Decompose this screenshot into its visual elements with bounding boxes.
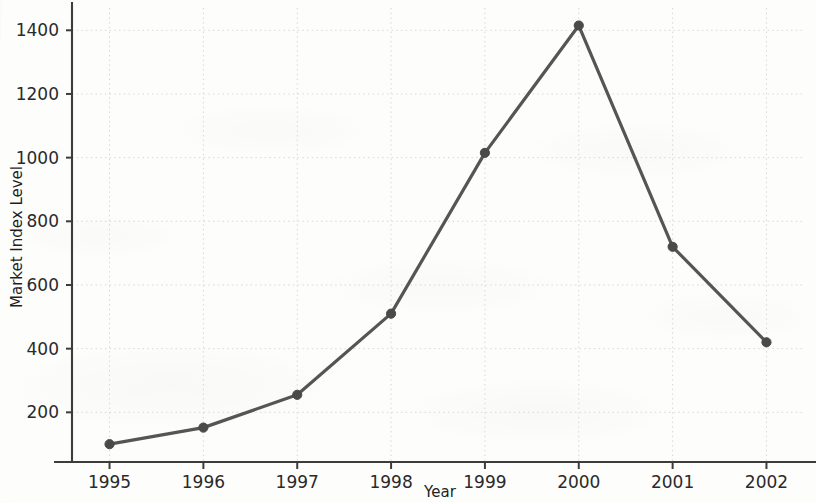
x-tick-label-1998: 1998: [369, 472, 412, 492]
x-tick-label-2000: 2000: [557, 472, 600, 492]
chart-page: 200400600800100012001400 199519961997199…: [0, 0, 816, 502]
x-tick-label-1999: 1999: [463, 472, 506, 492]
y-tick-label-1200: 1200: [16, 84, 59, 104]
data-point-2000: [574, 21, 583, 30]
x-tick-label-1997: 1997: [276, 472, 319, 492]
x-tick-label-2002: 2002: [745, 472, 788, 492]
data-point-2001: [668, 242, 677, 251]
y-tick-label-400: 400: [27, 339, 59, 359]
data-point-1995: [105, 440, 114, 449]
data-point-1999: [480, 148, 489, 157]
x-tick-label-2001: 2001: [651, 472, 694, 492]
y-axis-title: Market Index Level: [8, 166, 26, 308]
y-tick-label-1400: 1400: [16, 20, 59, 40]
series-line-market-index-level: [110, 26, 767, 445]
y-tick-label-200: 200: [27, 402, 59, 422]
data-point-1996: [199, 423, 208, 432]
data-point-2002: [762, 338, 771, 347]
x-axis-title: Year: [423, 483, 457, 501]
axis-spines: [54, 2, 816, 462]
y-tick-label-800: 800: [27, 211, 59, 231]
data-point-1997: [293, 390, 302, 399]
y-tick-label-1000: 1000: [16, 148, 59, 168]
market-index-line-chart: 200400600800100012001400 199519961997199…: [0, 0, 816, 502]
axis-ticks: [66, 30, 766, 469]
x-tick-label-1996: 1996: [182, 472, 225, 492]
x-tick-label-1995: 1995: [88, 472, 131, 492]
data-point-1998: [386, 309, 395, 318]
y-tick-label-600: 600: [27, 275, 59, 295]
data-line-series: [110, 26, 767, 445]
